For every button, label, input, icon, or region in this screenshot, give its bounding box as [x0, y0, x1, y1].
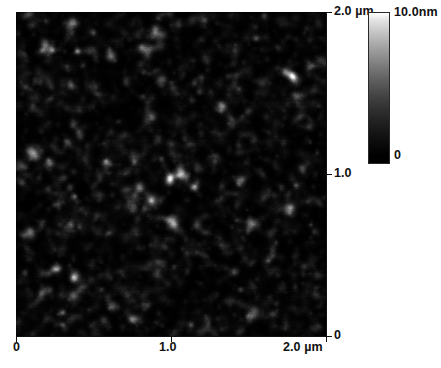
y-axis-tick-1 [327, 174, 332, 175]
y-axis-tick-0 [327, 336, 332, 337]
x-axis-label-left: 0 [13, 340, 20, 354]
y-axis-tick-2 [327, 12, 332, 13]
afm-scan-image [16, 12, 326, 336]
afm-figure: 2.0 µm 1.0 0 0 1.0 2.0 µm 10.0nm 0 [0, 0, 441, 368]
height-colorbar [368, 12, 390, 164]
afm-scan-canvas [16, 12, 326, 336]
y-axis-label-bottom: 0 [334, 328, 341, 342]
colorbar-max-label: 10.0nm [394, 5, 438, 19]
x-axis-label-mid: 1.0 [159, 340, 177, 354]
y-axis-label-mid: 1.0 [334, 166, 352, 180]
x-axis-label-right: 2.0 µm [283, 340, 323, 354]
colorbar-min-label: 0 [394, 148, 401, 162]
x-axis-tick-2 [326, 337, 327, 342]
